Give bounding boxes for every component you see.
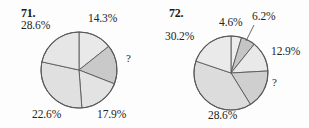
- pie-label-72-top-small: 4.6%: [219, 16, 243, 28]
- pie-label-71-top-left: 28.6%: [21, 19, 50, 31]
- exercise-71: 71. 14.3% 28.6% ? 22.6% 17.9%: [0, 0, 155, 128]
- pie-label-72-right: 12.9%: [271, 45, 300, 57]
- pie-label-72-top-right-small: 6.2%: [252, 10, 276, 22]
- pie-label-71-bottom-right: 17.9%: [97, 108, 126, 120]
- worksheet-page: 71. 14.3% 28.6% ? 22.6% 17.9% 72.: [0, 0, 309, 128]
- pie-label-71-unknown: ?: [126, 52, 131, 64]
- leader-line-72-6-2: [246, 25, 254, 41]
- pie-label-71-top-right: 14.3%: [88, 12, 117, 24]
- pie-label-72-left: 30.2%: [165, 30, 194, 42]
- exercise-72: 72. 4.6% 6.2% 12.9% ? 28.6% 30.2%: [155, 0, 309, 128]
- pie-label-72-unknown: ?: [272, 76, 277, 88]
- pie-label-72-bottom: 28.6%: [208, 109, 237, 121]
- pie-label-71-bottom-left: 22.6%: [32, 108, 61, 120]
